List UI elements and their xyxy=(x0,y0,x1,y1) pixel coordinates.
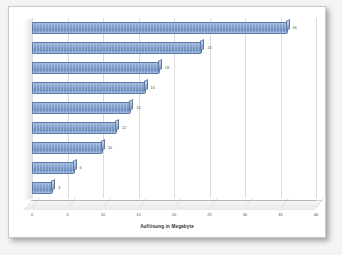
bar xyxy=(32,122,117,133)
bar-row: 24 xyxy=(32,42,316,53)
bar-row: 16 xyxy=(32,82,316,93)
x-tick-label: 20 xyxy=(172,212,176,217)
bar-3d-cap xyxy=(286,19,290,31)
x-tick-label: 5 xyxy=(66,212,68,217)
bar-3d-cap xyxy=(158,59,162,71)
bar-value-label: 36 xyxy=(293,26,297,30)
bar-row: 36 xyxy=(32,22,316,33)
chart-bars: 3624181614121063 xyxy=(32,18,316,198)
bar xyxy=(32,22,288,33)
bar xyxy=(32,62,160,73)
gridline xyxy=(316,18,317,198)
bar xyxy=(32,182,53,193)
screenshot-canvas: 3624181614121063 0510152025303540 Auflös… xyxy=(0,0,342,255)
bar-row: 12 xyxy=(32,122,316,133)
bar-value-label: 14 xyxy=(136,106,140,110)
x-tick-label: 10 xyxy=(101,212,105,217)
bar-3d-cap xyxy=(101,139,105,151)
bar-3d-cap xyxy=(51,179,55,191)
x-tick-label: 35 xyxy=(278,212,282,217)
bar-value-label: 18 xyxy=(165,66,169,70)
x-tick-label: 0 xyxy=(31,212,33,217)
bar-row: 10 xyxy=(32,142,316,153)
x-tick-label: 25 xyxy=(207,212,211,217)
bar-3d-cap xyxy=(73,159,77,171)
bar-3d-cap xyxy=(144,79,148,91)
bar-value-label: 12 xyxy=(122,126,126,130)
bar-value-label: 16 xyxy=(151,86,155,90)
x-tick-label: 30 xyxy=(243,212,247,217)
bar-value-label: 24 xyxy=(207,46,211,50)
bar-value-label: 10 xyxy=(108,146,112,150)
x-axis-line xyxy=(32,200,316,201)
chart-plot-area: 3624181614121063 0510152025303540 Auflös… xyxy=(15,12,319,210)
bar-value-label: 3 xyxy=(58,186,60,190)
x-tick-label: 40 xyxy=(314,212,318,217)
bar xyxy=(32,42,202,53)
bar-row: 14 xyxy=(32,102,316,113)
bar xyxy=(32,102,131,113)
bar-row: 18 xyxy=(32,62,316,73)
x-tick-label: 15 xyxy=(136,212,140,217)
chart-sheet: 3624181614121063 0510152025303540 Auflös… xyxy=(8,6,326,238)
bar-value-label: 6 xyxy=(80,166,82,170)
bar-3d-cap xyxy=(115,119,119,131)
x-axis-title: Auflösung in Megabyte xyxy=(15,224,319,229)
bar-row: 6 xyxy=(32,162,316,173)
bar xyxy=(32,162,75,173)
x-axis-ticks: 0510152025303540 xyxy=(32,212,316,220)
bar xyxy=(32,82,146,93)
bar-row: 3 xyxy=(32,182,316,193)
bar-3d-cap xyxy=(200,39,204,51)
bar xyxy=(32,142,103,153)
bar-3d-cap xyxy=(129,99,133,111)
